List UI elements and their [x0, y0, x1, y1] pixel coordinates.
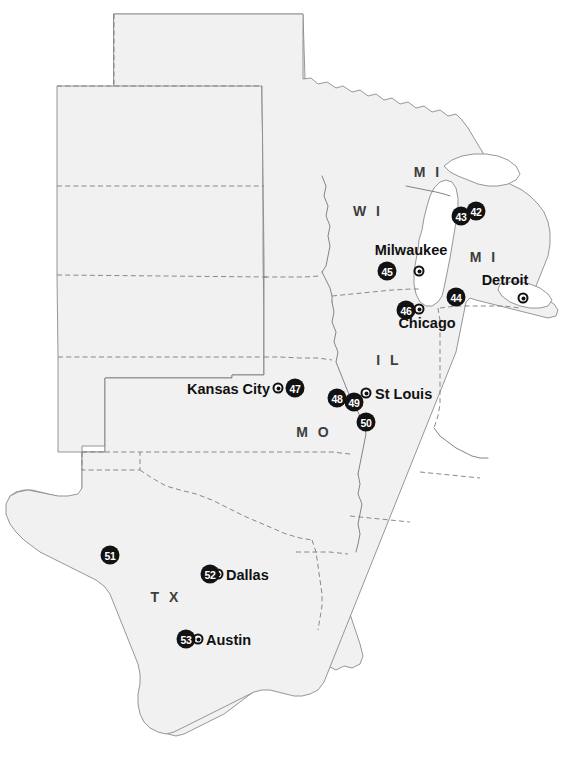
site-marker-44[interactable]: 44	[447, 288, 466, 307]
city-label-kansas-city: Kansas City	[187, 382, 270, 397]
city-dot-kansas-city	[273, 383, 284, 394]
border-in-ky-river	[434, 428, 488, 458]
site-marker-50[interactable]: 50	[357, 413, 376, 432]
city-dot-detroit	[518, 293, 529, 304]
site-marker-46[interactable]: 46	[397, 301, 416, 320]
site-marker-48[interactable]: 48	[328, 389, 347, 408]
state-label-mi-lower: M I	[470, 250, 498, 264]
state-label-mo: M O	[296, 425, 331, 439]
site-marker-53[interactable]: 53	[177, 630, 196, 649]
state-label-tx: T X	[151, 590, 182, 604]
site-marker-43[interactable]: 43	[452, 207, 471, 226]
state-label-wi: W I	[353, 204, 383, 218]
site-marker-45[interactable]: 45	[378, 262, 397, 281]
site-marker-49[interactable]: 49	[345, 393, 364, 412]
state-label-mi-upper: M I	[414, 165, 442, 179]
map-geometry	[0, 0, 566, 784]
map-canvas[interactable]: M I W I M I I L M O T X Milwaukee Detroi…	[0, 0, 566, 784]
site-marker-47[interactable]: 47	[286, 379, 305, 398]
border-ky-tn	[420, 472, 480, 478]
city-label-dallas: Dallas	[226, 568, 269, 583]
city-label-st-louis: St Louis	[375, 387, 432, 402]
city-label-detroit: Detroit	[482, 273, 529, 288]
city-dot-milwaukee	[414, 266, 425, 277]
city-label-austin: Austin	[206, 633, 251, 648]
state-label-il: I L	[376, 353, 401, 367]
city-label-milwaukee: Milwaukee	[375, 243, 448, 258]
site-marker-52[interactable]: 52	[201, 565, 220, 584]
site-marker-51[interactable]: 51	[101, 546, 120, 565]
